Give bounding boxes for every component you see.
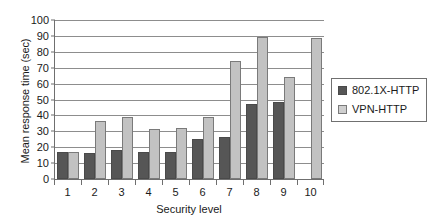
legend-label: 802.1X-HTTP [352, 84, 419, 96]
y-tick-label-70: 70 [37, 62, 49, 74]
y-tick-label-90: 90 [37, 30, 49, 42]
x-tick-mark-4 [135, 180, 136, 185]
bar-802-1x-http-1 [57, 152, 68, 179]
bar-vpn-http-2 [95, 121, 106, 179]
plot-area: 0102030405060708090100 [54, 20, 324, 180]
y-tick-label-50: 50 [37, 94, 49, 106]
x-tick-label-10: 10 [297, 186, 324, 198]
bar-vpn-http-3 [122, 117, 133, 179]
x-tick-label-8: 8 [243, 186, 270, 198]
x-tick-label-7: 7 [216, 186, 243, 198]
y-tick-label-10: 10 [37, 157, 49, 169]
bar-vpn-http-6 [203, 117, 214, 179]
bar-group-8 [243, 20, 270, 179]
x-tick-mark-3 [108, 180, 109, 185]
bar-group-1 [55, 20, 82, 179]
legend-label: VPN-HTTP [352, 103, 407, 115]
x-tick-mark-10 [297, 180, 298, 185]
chart-legend: 802.1X-HTTPVPN-HTTP [331, 78, 427, 122]
bar-group-3 [109, 20, 136, 179]
y-tick-label-100: 100 [31, 14, 49, 26]
legend-entry-vpn-http: VPN-HTTP [338, 103, 419, 115]
bar-802-1x-http-7 [219, 137, 230, 179]
x-tick-cell-9 [270, 180, 297, 185]
bar-vpn-http-9 [284, 77, 295, 179]
y-axis-title: Mean response time (sec) [19, 16, 31, 186]
x-axis-tick-labels: 12345678910 [54, 186, 324, 198]
x-tick-cell-5 [162, 180, 189, 185]
x-tick-label-9: 9 [270, 186, 297, 198]
bar-group-4 [136, 20, 163, 179]
bar-group-7 [216, 20, 243, 179]
x-tick-cell-6 [189, 180, 216, 185]
bar-802-1x-http-6 [192, 139, 203, 179]
y-tick-label-0: 0 [43, 173, 49, 185]
y-tick-label-60: 60 [37, 78, 49, 90]
bar-802-1x-http-9 [273, 102, 284, 179]
x-tick-cell-8 [243, 180, 270, 185]
bar-vpn-http-1 [68, 152, 79, 179]
x-tick-label-5: 5 [162, 186, 189, 198]
x-tick-mark-2 [81, 180, 82, 185]
x-tick-mark-8 [243, 180, 244, 185]
bar-group-9 [270, 20, 297, 179]
bar-vpn-http-7 [230, 61, 241, 179]
x-tick-label-2: 2 [81, 186, 108, 198]
x-tick-label-1: 1 [54, 186, 81, 198]
legend-entry-802-1x-http: 802.1X-HTTP [338, 84, 419, 96]
x-tick-mark-6 [189, 180, 190, 185]
x-tick-cell-1 [54, 180, 81, 185]
x-tick-cell-10 [297, 180, 324, 185]
x-tick-mark-7 [216, 180, 217, 185]
y-tick-label-30: 30 [37, 125, 49, 137]
bar-802-1x-http-2 [84, 153, 95, 179]
bar-802-1x-http-3 [111, 150, 122, 179]
legend-swatch-icon [338, 86, 347, 95]
x-tick-mark-5 [162, 180, 163, 185]
x-tick-mark-1 [54, 180, 55, 185]
bar-chart-figure: Mean response time (sec) 010203040506070… [0, 0, 430, 223]
x-tick-cell-3 [108, 180, 135, 185]
bar-802-1x-http-4 [138, 152, 149, 179]
bar-802-1x-http-8 [246, 104, 257, 179]
bar-vpn-http-10 [311, 38, 322, 179]
x-axis-title: Security level [54, 203, 324, 215]
legend-swatch-icon [338, 105, 347, 114]
x-tick-label-3: 3 [108, 186, 135, 198]
x-tick-cell-2 [81, 180, 108, 185]
bar-802-1x-http-5 [165, 152, 176, 179]
x-tick-label-6: 6 [189, 186, 216, 198]
x-axis-tick-marks [54, 180, 324, 185]
y-tick-label-80: 80 [37, 46, 49, 58]
bar-group-10 [297, 20, 324, 179]
bar-group-6 [190, 20, 217, 179]
x-tick-label-4: 4 [135, 186, 162, 198]
x-tick-mark-end [323, 180, 324, 185]
x-tick-mark-9 [270, 180, 271, 185]
y-tick-label-40: 40 [37, 109, 49, 121]
bar-vpn-http-4 [149, 129, 160, 179]
y-tick-label-20: 20 [37, 141, 49, 153]
bar-vpn-http-8 [257, 37, 268, 179]
bar-group-2 [82, 20, 109, 179]
bars-layer [55, 20, 324, 179]
x-tick-cell-4 [135, 180, 162, 185]
x-tick-cell-7 [216, 180, 243, 185]
bar-group-5 [163, 20, 190, 179]
bar-vpn-http-5 [176, 128, 187, 179]
